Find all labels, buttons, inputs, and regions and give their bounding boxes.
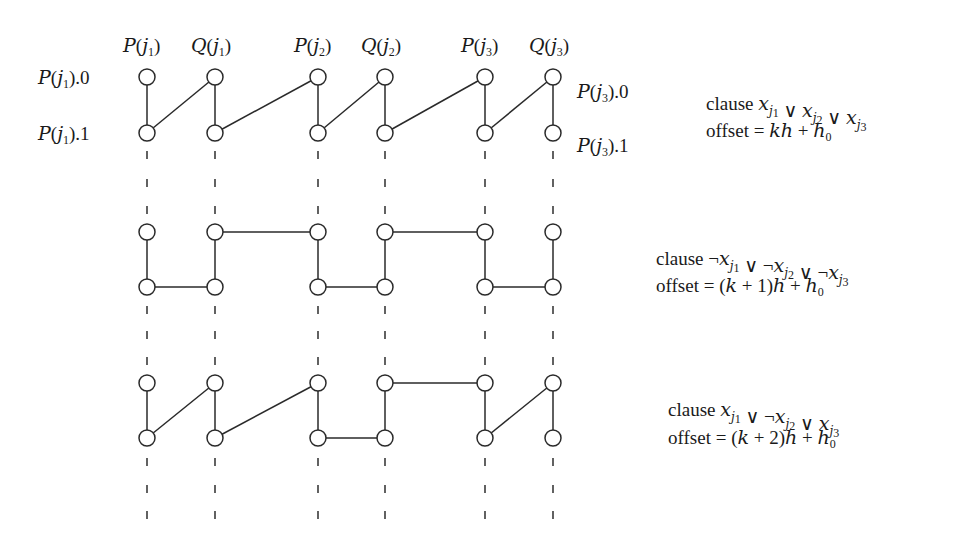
node-q1-1 <box>207 430 223 446</box>
node-p1-1 <box>139 279 155 295</box>
node-p3-1 <box>477 125 493 141</box>
row-labels: P(j1).0P(j1).1P(j3).0P(j3).1 <box>37 66 629 159</box>
node-q2-0 <box>377 69 393 85</box>
row-label-right-top: P(j3).0 <box>576 80 629 105</box>
node-p1-1 <box>139 430 155 446</box>
node-q1-0 <box>207 69 223 85</box>
edge <box>485 77 553 133</box>
clause-labels: clause xj1 ∨ xj2 ∨ xj3offset = kh + h0cl… <box>656 92 866 451</box>
gadget-clause-1 <box>139 69 561 141</box>
node-p3-1 <box>477 430 493 446</box>
edge <box>147 77 215 133</box>
node-q3-1 <box>545 279 561 295</box>
node-p3-0 <box>477 69 493 85</box>
node-q3-0 <box>545 375 561 391</box>
node-q1-0 <box>207 224 223 240</box>
node-q2-1 <box>377 430 393 446</box>
row-label-left-bottom: P(j1).1 <box>37 122 90 147</box>
gadget-clause-2 <box>139 224 561 295</box>
node-q1-1 <box>207 279 223 295</box>
node-p3-0 <box>477 375 493 391</box>
node-p2-0 <box>310 224 326 240</box>
node-q2-0 <box>377 224 393 240</box>
clause-2-offset-label: offset = (k + 1)h + h0 <box>656 274 824 299</box>
node-p2-0 <box>310 375 326 391</box>
node-p1-0 <box>139 224 155 240</box>
node-p2-1 <box>310 125 326 141</box>
node-p2-1 <box>310 430 326 446</box>
column-headers: P(j1)Q(j1)P(j2)Q(j2)P(j3)Q(j3) <box>122 34 569 59</box>
column-header-q3: Q(j3) <box>529 34 569 59</box>
edge <box>215 383 318 438</box>
node-q2-1 <box>377 279 393 295</box>
node-p2-1 <box>310 279 326 295</box>
clause-gadgets <box>139 69 561 446</box>
node-q3-1 <box>545 430 561 446</box>
edge <box>318 77 385 133</box>
column-header-p2: P(j2) <box>293 34 331 59</box>
node-p1-0 <box>139 375 155 391</box>
node-p1-1 <box>139 125 155 141</box>
node-q1-0 <box>207 375 223 391</box>
row-label-left-top: P(j1).0 <box>37 66 90 91</box>
node-q3-0 <box>545 224 561 240</box>
clause-1-offset-label: offset = kh + h0 <box>706 119 831 144</box>
edge <box>215 77 318 133</box>
node-p1-0 <box>139 69 155 85</box>
edge <box>147 383 215 438</box>
column-header-p1: P(j1) <box>122 34 160 59</box>
reduction-diagram: P(j1)Q(j1)P(j2)Q(j2)P(j3)Q(j3) P(j1).0P(… <box>0 0 959 557</box>
gadget-clause-3 <box>139 375 561 446</box>
node-q2-0 <box>377 375 393 391</box>
node-p3-1 <box>477 279 493 295</box>
row-label-right-bottom: P(j3).1 <box>576 134 629 159</box>
node-q3-1 <box>545 125 561 141</box>
node-q1-1 <box>207 125 223 141</box>
node-q2-1 <box>377 125 393 141</box>
clause-3-offset-label: offset = (k + 2)h + h0 <box>668 426 836 451</box>
node-q3-0 <box>545 69 561 85</box>
node-p3-0 <box>477 224 493 240</box>
dashed-column-guides <box>147 151 553 519</box>
column-header-q2: Q(j2) <box>361 34 401 59</box>
edge <box>385 77 485 133</box>
column-header-p3: P(j3) <box>460 34 498 59</box>
edge <box>485 383 553 438</box>
node-p2-0 <box>310 69 326 85</box>
column-header-q1: Q(j1) <box>191 34 231 59</box>
